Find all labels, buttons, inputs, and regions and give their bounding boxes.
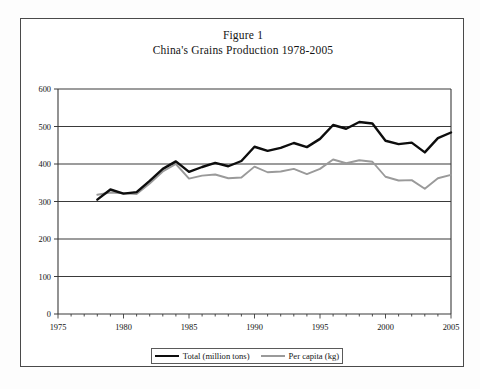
legend-entry-total: Total (million tons): [155, 351, 250, 361]
xtick-label-1990: 1990: [246, 323, 263, 332]
chart-legend: Total (million tons) Per capita (kg): [151, 348, 343, 364]
xtick-label-1980: 1980: [115, 323, 132, 332]
ytick-label-0: 0: [47, 310, 51, 319]
figure-frame: Figure 1 China's Grains Production 1978-…: [20, 18, 464, 367]
ytick-label-100: 100: [38, 273, 51, 282]
line-chart-plot: 0100200300400500600197519801985199019952…: [21, 19, 465, 368]
xtick-label-2005: 2005: [443, 323, 460, 332]
xtick-label-1995: 1995: [312, 323, 329, 332]
legend-label-total: Total (million tons): [183, 351, 250, 361]
xtick-label-1985: 1985: [181, 323, 198, 332]
xtick-label-1975: 1975: [50, 323, 67, 332]
ytick-label-600: 600: [38, 85, 51, 94]
legend-swatch-total-icon: [155, 355, 179, 357]
ytick-label-300: 300: [38, 198, 51, 207]
legend-label-per-capita: Per capita (kg): [289, 351, 340, 361]
legend-entry-per-capita: Per capita (kg): [261, 351, 340, 361]
xtick-label-2000: 2000: [377, 323, 394, 332]
ytick-label-200: 200: [38, 235, 51, 244]
ytick-label-400: 400: [38, 160, 51, 169]
series-line-per-capita: [97, 160, 451, 195]
series-line-total: [97, 122, 451, 200]
figure-page: Figure 1 China's Grains Production 1978-…: [0, 0, 480, 389]
legend-swatch-per-capita-icon: [261, 355, 285, 357]
ytick-label-500: 500: [38, 123, 51, 132]
